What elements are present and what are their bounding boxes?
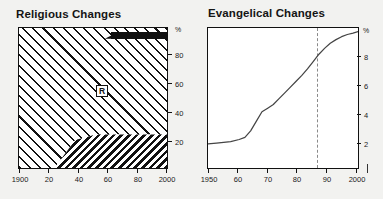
xtick-label-1980: 80 bbox=[134, 175, 142, 184]
ytick-label-6: 6 bbox=[364, 82, 368, 91]
chart-title-evangelical: Evangelical Changes bbox=[208, 7, 325, 19]
xtick-mark-1990 bbox=[326, 169, 327, 173]
ytick-label-40: 40 bbox=[175, 109, 183, 118]
line-path-evangelical bbox=[208, 32, 358, 144]
ytick-mark-6 bbox=[357, 85, 361, 86]
xtick-mark-1980 bbox=[296, 169, 297, 173]
axis-stub-marker bbox=[367, 164, 368, 173]
xtick-mark-2000 bbox=[356, 169, 357, 173]
xtick-label-2000: 2000 bbox=[349, 175, 366, 184]
chart-title-religious: Religious Changes bbox=[16, 8, 121, 20]
xtick-mark-1960 bbox=[107, 169, 108, 173]
plot-area-evangelical bbox=[207, 27, 359, 169]
xtick-label-1970: 70 bbox=[264, 175, 272, 184]
xtick-mark-1980 bbox=[137, 169, 138, 173]
ytick-mark-20 bbox=[168, 141, 172, 142]
xtick-label-1960: 60 bbox=[234, 175, 242, 184]
panel-evangelical-changes: Evangelical Changes 8 6 4 2 % bbox=[191, 0, 383, 199]
plot-area-religious: R bbox=[18, 27, 168, 169]
line-series-evangelical bbox=[208, 28, 358, 168]
ytick-mark-60 bbox=[168, 83, 172, 84]
yaxis-unit-percent-right: % bbox=[363, 27, 369, 34]
ytick-label-20: 20 bbox=[175, 138, 183, 147]
xtick-label-1980: 80 bbox=[293, 175, 301, 184]
ytick-label-8: 8 bbox=[364, 53, 368, 62]
xtick-label-1940: 40 bbox=[75, 175, 83, 184]
ytick-mark-40 bbox=[168, 112, 172, 113]
ytick-mark-80 bbox=[168, 54, 172, 55]
xtick-label-1960: 60 bbox=[104, 175, 112, 184]
xtick-mark-2000 bbox=[166, 169, 167, 173]
area-fill-religious-topband bbox=[111, 32, 167, 38]
xtick-mark-1950 bbox=[208, 169, 209, 173]
figure-canvas: Religious Changes R 80 60 40 20 % bbox=[0, 0, 383, 199]
xtick-mark-1900 bbox=[19, 169, 20, 173]
ytick-label-60: 60 bbox=[175, 80, 183, 89]
yaxis-unit-percent-left: % bbox=[175, 26, 181, 33]
series-label-R: R bbox=[96, 85, 108, 97]
xtick-label-1990: 90 bbox=[323, 175, 331, 184]
ytick-label-4: 4 bbox=[364, 111, 368, 120]
xtick-label-2000: 2000 bbox=[159, 175, 176, 184]
xtick-label-1950: 1950 bbox=[201, 175, 218, 184]
ytick-label-80: 80 bbox=[175, 51, 183, 60]
ytick-mark-2 bbox=[357, 143, 361, 144]
xtick-mark-1960 bbox=[237, 169, 238, 173]
ytick-label-2: 2 bbox=[364, 140, 368, 149]
xtick-mark-1970 bbox=[267, 169, 268, 173]
ytick-mark-4 bbox=[357, 114, 361, 115]
ytick-mark-8 bbox=[357, 56, 361, 57]
panel-religious-changes: Religious Changes R 80 60 40 20 % bbox=[0, 0, 192, 199]
xtick-mark-1940 bbox=[78, 169, 79, 173]
xtick-label-1920: 20 bbox=[45, 175, 53, 184]
xtick-label-1900: 1900 bbox=[12, 175, 29, 184]
xtick-mark-1920 bbox=[48, 169, 49, 173]
